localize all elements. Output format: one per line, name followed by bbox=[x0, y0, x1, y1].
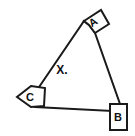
interior-point-label: X. bbox=[56, 63, 67, 77]
triangle-diagram: A B C X. bbox=[0, 0, 135, 136]
vertex-label-b: B bbox=[114, 111, 122, 123]
vertex-label-c: C bbox=[26, 91, 34, 103]
figure-canvas: A B C X. bbox=[0, 0, 135, 136]
